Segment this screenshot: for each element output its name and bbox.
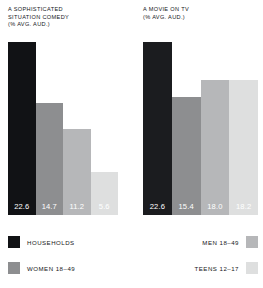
chart-title-line-1: A MOVIE ON TV [143, 6, 189, 12]
bar-men-18-49[interactable]: 18.0 [201, 80, 230, 215]
bar-value-label: 14.7 [36, 202, 64, 211]
bar-value-label: 18.2 [229, 202, 258, 211]
legend-label-teens: TEENS 12–17 [195, 265, 239, 272]
bar-women-18-49[interactable]: 15.4 [172, 97, 201, 215]
bar-plot-sitcom: 22.6 14.7 11.2 5.6 [8, 42, 118, 215]
legend-item-men[interactable]: MEN 18–49 [202, 236, 258, 248]
legend-label-households: HOUSEHOLDS [27, 239, 75, 246]
bar-men-18-49[interactable]: 11.2 [63, 129, 91, 215]
bar-households[interactable]: 22.6 [143, 42, 172, 215]
chart-title-sitcom: A SOPHISTICATED SITUATION COMEDY (% AVG.… [8, 6, 69, 29]
legend-label-men: MEN 18–49 [202, 239, 239, 246]
bar-value-label: 22.6 [8, 202, 36, 211]
legend-swatch-households [8, 236, 20, 248]
bar-women-18-49[interactable]: 14.7 [36, 103, 64, 215]
bar-value-label: 18.0 [201, 202, 230, 211]
legend-swatch-women [8, 262, 20, 274]
bar-value-label: 11.2 [63, 202, 91, 211]
chart-title-line-2: SITUATION COMEDY [8, 14, 69, 20]
bar-value-label: 15.4 [172, 202, 201, 211]
legend-swatch-men [246, 236, 258, 248]
chart-panel-sitcom: A SOPHISTICATED SITUATION COMEDY (% AVG.… [8, 0, 118, 215]
bar-households[interactable]: 22.6 [8, 42, 36, 215]
legend-swatch-teens [246, 262, 258, 274]
bar-teens-12-17[interactable]: 5.6 [91, 172, 119, 215]
chart-panel-movie: A MOVIE ON TV (% AVG. AUD.) 22.6 15.4 18… [143, 0, 258, 215]
chart-title-movie: A MOVIE ON TV (% AVG. AUD.) [143, 6, 189, 21]
legend-item-households[interactable]: HOUSEHOLDS [8, 236, 75, 248]
bar-value-label: 5.6 [91, 202, 119, 211]
legend-item-women[interactable]: WOMEN 18–49 [8, 262, 75, 274]
chart-title-line-2: (% AVG. AUD.) [143, 14, 185, 20]
legend-label-women: WOMEN 18–49 [27, 265, 75, 272]
chart-title-line-1: A SOPHISTICATED [8, 6, 63, 12]
legend-item-teens[interactable]: TEENS 12–17 [195, 262, 258, 274]
bar-plot-movie: 22.6 15.4 18.0 18.2 [143, 42, 258, 215]
bar-value-label: 22.6 [143, 202, 172, 211]
chart-title-line-3: (% AVG. AUD.) [8, 21, 50, 27]
bar-teens-12-17[interactable]: 18.2 [229, 80, 258, 215]
